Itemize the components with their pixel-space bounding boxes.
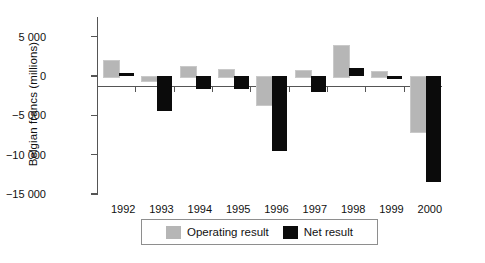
bar-group (212, 17, 250, 194)
bar-operating-result (333, 45, 350, 78)
x-tick-mark (404, 86, 405, 92)
x-tick-label: 2000 (400, 203, 460, 215)
bar-group (289, 17, 327, 194)
y-tick-label: −15 000 (6, 188, 46, 200)
y-tick-label: −5 000 (12, 109, 46, 121)
bar-group (250, 17, 288, 194)
x-tick-mark (97, 86, 98, 92)
bar-operating-result (295, 70, 312, 78)
bar-net-result (196, 76, 211, 89)
bar-operating-result (218, 69, 235, 78)
bar-net-result (349, 68, 364, 76)
x-tick-mark (212, 86, 213, 92)
x-tick-mark (365, 86, 366, 92)
bar-group (135, 17, 173, 194)
bar-operating-result (410, 76, 427, 133)
legend-label-operating: Operating result (187, 226, 269, 238)
operating-swatch-icon (166, 226, 181, 239)
bar-group (327, 17, 365, 194)
legend-entry-operating: Operating result (166, 226, 269, 239)
net-swatch-icon (283, 226, 298, 239)
bar-net-result (426, 76, 441, 182)
bar-net-result (311, 76, 326, 92)
bar-net-result (272, 76, 287, 151)
bar-group (174, 17, 212, 194)
bar-net-result (157, 76, 172, 111)
y-tick-label: 0 (40, 70, 46, 82)
bar-operating-result (371, 71, 388, 78)
y-axis-title: Belgian francs (millions) (27, 19, 39, 189)
bar-net-result (387, 76, 402, 79)
x-tick-mark (174, 86, 175, 92)
bar-net-result (119, 73, 134, 76)
bar-group (365, 17, 403, 194)
bar-group (97, 17, 135, 194)
bar-operating-result (180, 66, 197, 78)
bar-groups (97, 17, 442, 194)
y-tick-label: −10 000 (6, 149, 46, 161)
bar-operating-result (103, 60, 120, 78)
x-tick-mark (289, 86, 290, 92)
bar-chart: Belgian francs (millions) 5 0000−5 000−1… (0, 0, 485, 263)
x-tick-mark (135, 86, 136, 92)
bar-operating-result (256, 76, 273, 106)
plot-area: 5 0000−5 000−10 000−15 000 1992199319941… (97, 17, 442, 194)
chart-legend: Operating result Net result (141, 219, 378, 245)
legend-label-net: Net result (304, 226, 353, 238)
y-tick-label: 5 000 (18, 31, 46, 43)
legend-entry-net: Net result (283, 226, 353, 239)
bar-group (404, 17, 442, 194)
bar-net-result (234, 76, 249, 89)
x-tick-mark (327, 86, 328, 92)
bar-operating-result (141, 76, 158, 82)
x-tick-mark (250, 86, 251, 92)
